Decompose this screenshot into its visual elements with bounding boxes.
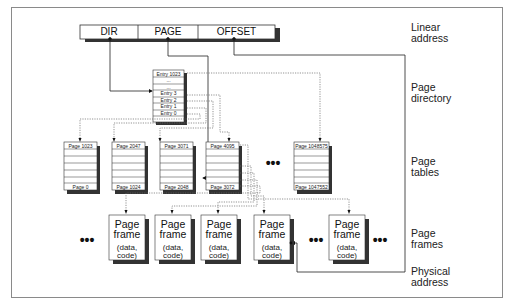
field-dir: DIR [80,25,138,39]
page-table-1: Page 2047 Page 1024 [112,142,148,194]
page-table-3: Page 4095 Page 3072 [206,142,242,194]
pt-top-label: Page 4095 [210,143,234,149]
svg-text:code): code) [209,251,229,260]
svg-text:code): code) [262,251,282,260]
pt-bottom-label: Page 1047552 [295,184,328,190]
page-frame-0: Page frame (data, code) [109,215,149,264]
pt-bottom-label: Page 1024 [116,184,140,190]
page-table-0: Page 1023 Page 0 [64,142,100,194]
pt-bottom-label: Page 0 [73,184,89,190]
paging-diagram: Entry 1023 ... ... Entry 3 Entry 2 Entry… [0,0,514,304]
pd-entry-1023: Entry 1023 [156,71,180,77]
pt-top-label: Page 1023 [68,143,92,149]
page-directory: Entry 1023 ... ... Entry 3 Entry 2 Entry… [153,70,187,125]
svg-text:code): code) [337,251,357,260]
svg-text:frame: frame [160,228,187,240]
frames-ellipsis-middle: ••• [309,232,324,248]
svg-text:frame: frame [259,228,286,240]
label-page-frames: Page frames [411,228,443,250]
field-page: PAGE [138,25,198,39]
pd-entry-3: Entry 3 [161,90,177,96]
pt-bottom-label: Page 3072 [210,184,234,190]
label-physical-address: Physical address [411,266,450,288]
pd-entry-ellipsis: ... [166,84,170,90]
page-frame-4: Page frame (data, code) [329,215,369,264]
label-page-tables: Page tables [411,156,439,178]
pd-entry-ellipsis: ... [166,77,170,83]
field-offset: OFFSET [198,25,275,39]
page-table-4: Page 1048575 Page 1047552 [294,142,332,194]
pt-top-label: Page 3071 [164,143,188,149]
svg-text:frame: frame [206,228,233,240]
label-page-directory: Page directory [411,82,451,104]
page-frame-1: Page frame (data, code) [155,215,195,264]
page-frame-2: Page frame (data, code) [201,215,241,264]
frames-ellipsis-right: ••• [373,232,388,248]
label-linear-address: Linear address [411,22,448,44]
svg-text:code): code) [117,251,137,260]
page-tables-ellipsis: ••• [266,155,281,171]
pd-entry-2: Entry 2 [161,97,177,103]
frames-ellipsis-left: ••• [80,232,95,248]
svg-text:code): code) [163,251,183,260]
pd-entry-1: Entry 1 [161,103,177,109]
pt-top-label: Page 1048575 [295,143,328,149]
svg-text:frame: frame [114,228,141,240]
svg-text:frame: frame [334,228,361,240]
pd-entry-0: Entry 0 [161,110,177,116]
pt-bottom-label: Page 2048 [164,184,188,190]
page-frame-3: Page frame (data, code) [254,215,294,264]
pd-to-pt-connectors [80,73,320,139]
page-table-2: Page 3071 Page 2048 [160,142,196,194]
pt-top-label: Page 2047 [116,143,140,149]
